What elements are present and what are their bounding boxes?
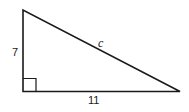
triangle-diagram: 7 11 c (0, 0, 189, 112)
right-angle-marker (23, 79, 36, 92)
horizontal-leg-label: 11 (88, 94, 99, 106)
vertical-leg-label: 7 (12, 46, 18, 58)
hypotenuse-label: c (98, 36, 104, 50)
right-triangle (23, 10, 180, 92)
